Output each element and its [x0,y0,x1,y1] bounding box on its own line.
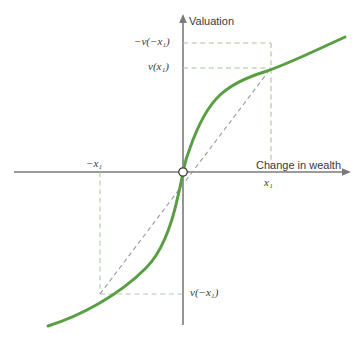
value-function-curve [48,37,345,326]
guide-lines-gain-group [183,43,271,172]
prospect-theory-value-function-chart: Valuation Change in wealth −v(−x₁) v(x₁)… [0,0,361,340]
x-axis-arrow-icon [342,168,351,176]
y-axis-arrow-icon [179,14,187,23]
guide-lines-loss-group [100,172,183,294]
reference-chord-line [100,68,271,294]
origin-marker-icon [179,168,187,176]
chart-canvas [0,0,361,340]
